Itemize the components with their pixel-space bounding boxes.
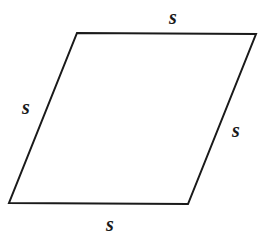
rhombus-diagram: s s s s (0, 0, 261, 235)
side-label-bottom: s (105, 213, 114, 235)
rhombus-shape (9, 33, 256, 204)
side-label-left: s (21, 96, 30, 118)
side-label-right: s (231, 119, 240, 141)
side-label-top: s (168, 6, 177, 28)
